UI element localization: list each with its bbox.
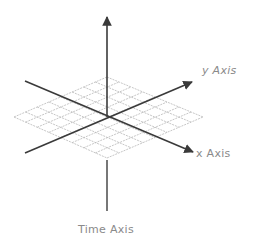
grid-line <box>49 92 143 132</box>
y-axis-arrow <box>25 82 192 153</box>
axes-diagram <box>0 0 258 245</box>
y-axis-label: y Axis <box>202 64 237 77</box>
x-axis-label: x Axis <box>196 147 231 160</box>
time-axis-label: Time Axis <box>78 223 134 236</box>
grid-line <box>95 112 191 153</box>
